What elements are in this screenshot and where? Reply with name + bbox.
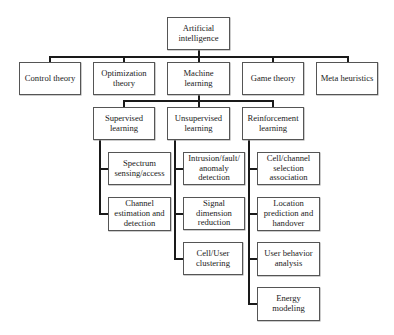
node-intrusion-detection: Intrusion/fault/ anomaly detection: [183, 152, 245, 185]
connector-reinforcement-spine: [248, 140, 250, 305]
node-reinforcement-learning: Reinforcement learning: [242, 107, 304, 140]
node-label: Control theory: [25, 74, 75, 84]
connector-reinforcement: [272, 100, 274, 107]
connector-supervised-spine: [99, 140, 101, 215]
node-user-behavior-analysis: User behavior analysis: [257, 242, 320, 276]
node-label: Artificial intelligence: [178, 24, 218, 44]
node-cell-channel-selection: Cell/channel selection association: [257, 152, 320, 185]
connector-cellchannel: [248, 168, 257, 170]
node-supervised-learning: Supervised learning: [93, 107, 155, 140]
node-label: Optimization theory: [101, 69, 146, 89]
node-control-theory: Control theory: [19, 62, 81, 95]
connector-unsupervised-spine: [174, 140, 176, 260]
connector-channel: [99, 213, 108, 215]
connector-userbehavior: [248, 258, 257, 260]
node-label: Meta heuristics: [321, 74, 374, 84]
node-label: Intrusion/fault/ anomaly detection: [188, 154, 240, 184]
node-label: Energy modeling: [272, 294, 304, 314]
node-label: Supervised learning: [105, 114, 143, 134]
node-channel-estimation: Channel estimation and detection: [108, 197, 171, 231]
node-unsupervised-learning: Unsupervised learning: [167, 107, 230, 140]
node-optimization-theory: Optimization theory: [93, 62, 155, 95]
connector-intrusion: [174, 168, 183, 170]
node-label: Spectrum sensing/access: [114, 159, 164, 179]
node-label: Game theory: [251, 74, 296, 84]
node-label: Machine learning: [183, 69, 213, 89]
node-machine-learning: Machine learning: [167, 62, 230, 95]
node-game-theory: Game theory: [242, 62, 304, 95]
node-label: Location prediction and handover: [264, 199, 313, 229]
node-label: Channel estimation and detection: [114, 199, 164, 229]
node-meta-heuristics: Meta heuristics: [316, 62, 378, 95]
node-label: Unsupervised learning: [175, 114, 222, 134]
node-cell-user-clustering: Cell/User clustering: [183, 242, 243, 275]
node-location-prediction: Location prediction and handover: [257, 197, 320, 231]
connector-unsupervised: [198, 100, 200, 107]
connector-energy: [248, 303, 257, 305]
node-label: Reinforcement learning: [247, 114, 298, 134]
connector-signal: [174, 213, 183, 215]
connector-location: [248, 213, 257, 215]
connector-celluser: [174, 258, 183, 260]
node-label: Cell/channel selection association: [267, 154, 310, 184]
connector-supervised: [123, 100, 125, 107]
node-signal-dimension-reduction: Signal dimension reduction: [183, 197, 245, 230]
node-label: User behavior analysis: [264, 249, 312, 269]
node-artificial-intelligence: Artificial intelligence: [167, 17, 230, 50]
node-energy-modeling: Energy modeling: [257, 287, 320, 321]
node-label: Cell/User clustering: [196, 249, 230, 269]
connector-spectrum: [99, 168, 108, 170]
node-label: Signal dimension reduction: [196, 199, 232, 229]
node-spectrum-sensing: Spectrum sensing/access: [108, 152, 171, 185]
